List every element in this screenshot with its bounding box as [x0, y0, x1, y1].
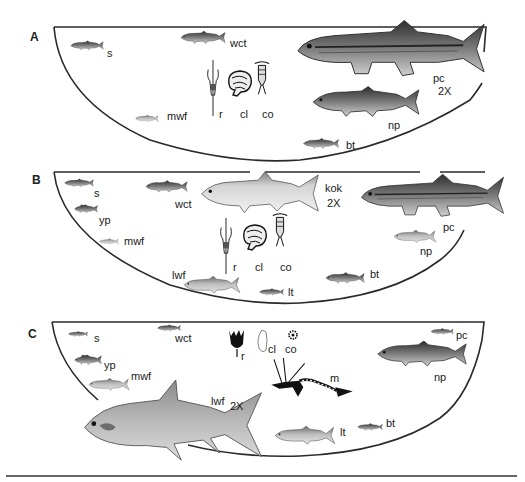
zoo-label-cl: cl [268, 343, 276, 355]
fish-wct-icon [181, 31, 225, 43]
fish-lwf-icon [85, 380, 262, 460]
mysis-icon [271, 358, 352, 397]
zoo-label-cl: cl [255, 261, 263, 273]
fish-bt-icon [358, 423, 383, 430]
fish-label-lwf: lwf [172, 269, 186, 281]
fish-label-yp: yp [99, 214, 111, 226]
fish-label-pc: pc [433, 72, 445, 84]
fish-scale-kok: 2X [327, 197, 341, 209]
cladoceran-icon [244, 225, 267, 250]
fish-label-pc: pc [443, 221, 455, 233]
zoo-label-r: r [241, 350, 245, 362]
fish-np-icon [313, 87, 419, 117]
copepod-icon [289, 331, 297, 339]
copepod-icon [273, 214, 287, 246]
zoo-label-co: co [280, 261, 292, 273]
fish-scale-pc: 2X [438, 85, 452, 97]
panel-letter-c: C [28, 327, 37, 341]
fish-kok-icon [202, 172, 319, 213]
fish-yp-icon [75, 355, 102, 365]
fish-label-np: np [434, 371, 446, 383]
fish-s-icon [68, 331, 87, 336]
fish-np-icon [394, 230, 436, 243]
fish-label-wct: wct [174, 198, 192, 210]
copepod-icon [255, 62, 269, 94]
fish-mwf-icon [89, 378, 129, 390]
panel-letter-b: B [32, 173, 41, 187]
fish-wct-icon [146, 180, 187, 192]
fish-label-mwf: mwf [124, 235, 145, 247]
fish-pc-icon [431, 328, 453, 334]
fish-label-mwf: mwf [131, 370, 152, 382]
fish-label-pc: pc [456, 329, 468, 341]
zoo-label-cl: cl [240, 108, 248, 120]
fish-bt-icon [303, 138, 338, 148]
fish-label-wct: wct [174, 332, 192, 344]
fish-mwf-icon [135, 115, 158, 122]
fish-lt-icon [275, 426, 335, 444]
panel-c: C s wct yp mwf lwf 2X pc np lt bt r cl [28, 322, 484, 460]
fish-label-kok: kok [325, 182, 343, 194]
fish-scale-lwf: 2X [230, 400, 244, 412]
fish-label-bt: bt [386, 417, 395, 429]
zoo-label-co: co [285, 343, 297, 355]
fish-label-lt: lt [340, 426, 346, 438]
fish-label-np: np [420, 245, 432, 257]
rotifer-icon [221, 218, 232, 274]
fish-label-s: s [94, 332, 100, 344]
food-web-figure: A s wct mwf pc 2X np bt r cl co B s yp m… [0, 0, 525, 482]
panel-b: B s yp mwf wct kok 2X pc np lwf lt bt r … [32, 172, 504, 304]
fish-pc-icon [361, 174, 503, 216]
fish-mwf-icon [99, 239, 118, 245]
fish-label-wct: wct [229, 37, 247, 49]
panel-letter-a: A [30, 30, 39, 44]
zoo-label-r: r [233, 261, 237, 273]
fish-label-mwf: mwf [167, 110, 188, 122]
cladoceran-icon [258, 330, 267, 352]
fish-np-icon [378, 341, 466, 366]
fish-s-icon [65, 179, 94, 187]
fish-lt-icon [260, 289, 284, 296]
fish-s-icon [71, 41, 104, 50]
fish-yp-icon [74, 205, 97, 213]
zoo-label-co: co [262, 108, 274, 120]
zoo-label-m: m [330, 372, 339, 384]
fish-label-np: np [388, 119, 400, 131]
fish-pc-icon [298, 21, 484, 76]
fish-wct-icon [157, 325, 180, 331]
rotifer-icon [208, 60, 219, 116]
fish-label-bt: bt [346, 139, 355, 151]
fish-label-s: s [107, 47, 113, 59]
fish-label-lt: lt [288, 286, 294, 298]
fish-label-lwf: lwf [211, 395, 225, 407]
fish-bt-icon [326, 272, 364, 283]
fish-label-s: s [94, 187, 100, 199]
cladoceran-icon [229, 71, 252, 96]
panel-a: A s wct mwf pc 2X np bt r cl co [30, 21, 486, 161]
zoo-label-r: r [219, 108, 223, 120]
fish-label-bt: bt [370, 268, 379, 280]
fish-label-yp: yp [104, 359, 116, 371]
